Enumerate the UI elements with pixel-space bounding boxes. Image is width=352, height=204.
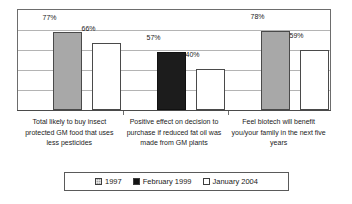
bar-group3-1997[interactable] bbox=[261, 31, 290, 110]
plot-area bbox=[17, 9, 331, 111]
grouped-bar-chart: 77% 66% 57% 40% 78% 59% Total likely to … bbox=[0, 0, 352, 204]
legend-swatch-february-1999-icon bbox=[133, 178, 140, 185]
value-label-group1-1997: 77% bbox=[32, 14, 67, 22]
bar-group2-january-2004[interactable] bbox=[196, 69, 225, 110]
legend-label-february-1999: February 1999 bbox=[143, 177, 192, 186]
chart-legend: 1997 February 1999 January 2004 bbox=[64, 172, 289, 191]
legend-label-january-2004: January 2004 bbox=[213, 177, 258, 186]
bar-group1-january-2004[interactable] bbox=[92, 43, 121, 110]
legend-item-january-2004[interactable]: January 2004 bbox=[203, 177, 258, 186]
category-tick-2 bbox=[228, 111, 229, 115]
category-label-1: Total likely to buy insect protected GM … bbox=[17, 117, 122, 157]
legend-label-1997: 1997 bbox=[105, 177, 122, 186]
legend-swatch-1997-icon bbox=[95, 178, 102, 185]
bar-group1-1997[interactable] bbox=[53, 32, 82, 110]
value-label-group3-january-2004: 59% bbox=[279, 32, 314, 40]
x-axis-baseline bbox=[17, 110, 331, 111]
bar-group2-february-1999[interactable] bbox=[157, 52, 186, 110]
legend-item-february-1999[interactable]: February 1999 bbox=[133, 177, 192, 186]
value-label-group3-1997: 78% bbox=[240, 13, 275, 21]
category-label-3: Feel biotech will benefit you/your famil… bbox=[226, 117, 331, 157]
category-tick-1 bbox=[123, 111, 124, 115]
value-label-group2-february-1999: 57% bbox=[136, 34, 171, 42]
category-label-row: Total likely to buy insect protected GM … bbox=[17, 117, 331, 157]
value-label-group1-january-2004: 66% bbox=[71, 25, 106, 33]
value-label-group2-january-2004: 40% bbox=[175, 51, 210, 59]
category-label-2: Positive effect on decision to purchase … bbox=[122, 117, 227, 157]
legend-swatch-january-2004-icon bbox=[203, 178, 210, 185]
bar-group3-january-2004[interactable] bbox=[300, 50, 329, 110]
legend-item-1997[interactable]: 1997 bbox=[95, 177, 122, 186]
